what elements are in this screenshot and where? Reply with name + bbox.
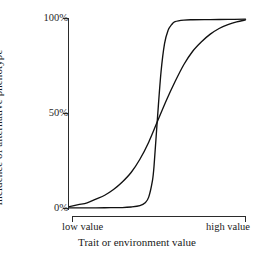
data-curves xyxy=(70,19,246,208)
curve-threshold-reaction-norm xyxy=(70,19,246,208)
y-axis-tick-label-0: 0% xyxy=(54,203,68,214)
x-axis-tick-label-low: low value xyxy=(62,221,103,232)
plot-area xyxy=(0,0,274,255)
y-axis-tick-label-100: 100% xyxy=(44,13,69,24)
x-axis-tick-label-high: high value xyxy=(206,221,250,232)
x-axis-title: Trait or environment value xyxy=(0,236,274,248)
y-axis-tick-label-50: 50% xyxy=(49,108,68,119)
y-axis-title-text: Incidence of alternative phenotype xyxy=(0,50,26,206)
y-axis-title: Incidence of alternative phenotype xyxy=(0,0,18,255)
chart-figure: 100% 50% 0% Incidence of alternative phe… xyxy=(0,0,274,255)
